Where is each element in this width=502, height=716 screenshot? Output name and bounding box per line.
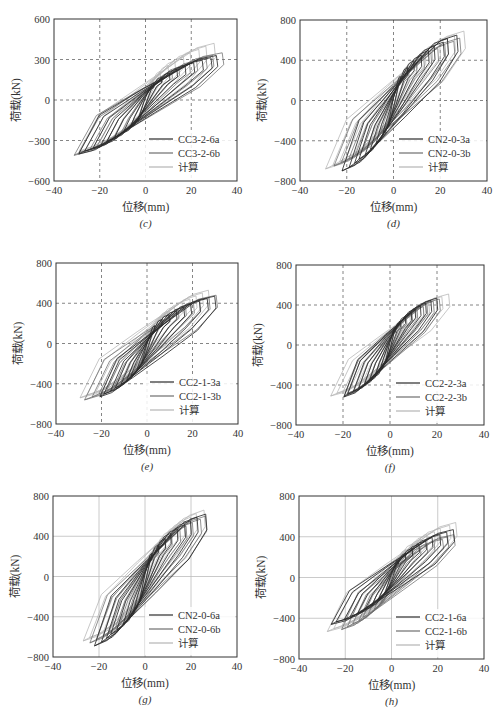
x-tick-label: 40 bbox=[479, 429, 490, 440]
y-tick-label: −800 bbox=[270, 420, 292, 431]
x-axis-label: 位移(mm) bbox=[370, 200, 418, 214]
y-tick-label: 0 bbox=[44, 572, 49, 583]
legend: CC2-1-3aCC2-1-3b计算 bbox=[146, 374, 236, 422]
y-tick-label: 400 bbox=[280, 55, 296, 66]
y-tick-label: 800 bbox=[279, 491, 295, 502]
figure-root: −40−2002040−600−3000300600位移(mm)荷载(kN)(c… bbox=[0, 0, 502, 716]
y-tick-label: 800 bbox=[276, 260, 292, 271]
legend-label: CC2-1-3b bbox=[179, 391, 221, 402]
x-tick-label: 40 bbox=[482, 185, 493, 196]
y-tick-label: −400 bbox=[273, 613, 295, 624]
legend-label: CC3-2-6a bbox=[178, 134, 220, 145]
legend-label: CC2-1-6a bbox=[425, 612, 467, 623]
chart-panel-h: −40−2002040−800−4000400800位移(mm)荷载(kN)(h… bbox=[255, 491, 489, 708]
x-tick-label: −20 bbox=[335, 429, 351, 440]
x-tick-label: 0 bbox=[387, 429, 392, 440]
y-tick-label: 300 bbox=[34, 55, 50, 66]
legend: CC2-2-3aCC2-2-3b计算 bbox=[392, 375, 482, 423]
chart-panel-g: −40−2002040−800−4000400800位移(mm)荷载(kN)(g… bbox=[9, 491, 242, 706]
legend: CC3-2-6aCC3-2-6b计算 bbox=[145, 131, 235, 179]
y-axis-label: 荷载(kN) bbox=[256, 78, 269, 122]
y-tick-label: 600 bbox=[34, 14, 50, 25]
x-tick-label: 20 bbox=[186, 185, 197, 196]
y-tick-label: −400 bbox=[274, 136, 296, 147]
y-tick-label: −400 bbox=[27, 612, 49, 623]
x-tick-label: 20 bbox=[186, 661, 197, 672]
y-axis-label: 荷载(kN) bbox=[12, 321, 25, 365]
x-tick-label: −20 bbox=[92, 185, 108, 196]
x-tick-label: −20 bbox=[339, 185, 355, 196]
x-tick-label: 0 bbox=[142, 661, 147, 672]
y-tick-label: 0 bbox=[287, 340, 292, 351]
legend-label: CN2-0-6a bbox=[178, 610, 220, 621]
y-tick-label: −800 bbox=[30, 419, 52, 430]
y-tick-label: −400 bbox=[30, 379, 52, 390]
y-tick-label: −800 bbox=[27, 652, 49, 663]
legend-label: 计算 bbox=[179, 404, 199, 416]
legend-label: 计算 bbox=[425, 639, 445, 651]
legend-label: CC2-2-3b bbox=[425, 392, 467, 403]
panel-caption: (g) bbox=[139, 693, 152, 706]
x-axis-label: 位移(mm) bbox=[368, 678, 416, 692]
legend-label: CC2-1-3a bbox=[179, 377, 221, 388]
x-tick-label: −20 bbox=[91, 661, 107, 672]
chart-panel-c: −40−2002040−600−3000300600位移(mm)荷载(kN)(c… bbox=[10, 14, 242, 230]
x-tick-label: 0 bbox=[143, 185, 148, 196]
legend: CN2-0-3aCN2-0-3b计算 bbox=[395, 131, 485, 179]
x-tick-label: −20 bbox=[337, 663, 353, 674]
chart-panel-d: −40−2002040−800−4000400800位移(mm)荷载(kN)(d… bbox=[256, 15, 492, 230]
legend-label: 计算 bbox=[178, 161, 198, 173]
y-tick-label: 400 bbox=[276, 300, 292, 311]
legend: CC2-1-6aCC2-1-6b计算 bbox=[392, 609, 482, 657]
panel-caption: (c) bbox=[139, 217, 152, 230]
x-axis-label: 位移(mm) bbox=[366, 444, 414, 458]
panel-caption: (e) bbox=[141, 460, 154, 473]
x-axis-label: 位移(mm) bbox=[122, 200, 170, 214]
y-axis-label: 荷载(kN) bbox=[252, 323, 265, 367]
y-tick-label: 800 bbox=[33, 491, 49, 502]
x-tick-label: 0 bbox=[389, 663, 394, 674]
x-tick-label: 40 bbox=[232, 185, 243, 196]
x-tick-label: 0 bbox=[391, 185, 396, 196]
x-axis-label: 位移(mm) bbox=[121, 676, 169, 690]
legend-label: CC3-2-6b bbox=[178, 148, 220, 159]
panel-caption: (f) bbox=[385, 461, 396, 474]
y-tick-label: 400 bbox=[279, 532, 295, 543]
x-tick-label: 20 bbox=[433, 663, 444, 674]
panel-caption: (d) bbox=[387, 217, 400, 230]
legend-label: 计算 bbox=[178, 637, 198, 649]
y-tick-label: 0 bbox=[291, 96, 296, 107]
y-axis-label: 荷载(kN) bbox=[10, 78, 23, 122]
y-tick-label: 400 bbox=[36, 298, 52, 309]
x-tick-label: 40 bbox=[479, 663, 490, 674]
y-tick-label: −800 bbox=[274, 176, 296, 187]
x-axis-label: 位移(mm) bbox=[123, 443, 171, 457]
y-axis-label: 荷载(kN) bbox=[9, 554, 22, 598]
y-tick-label: −400 bbox=[270, 380, 292, 391]
y-tick-label: 0 bbox=[47, 339, 52, 350]
y-axis-label: 荷载(kN) bbox=[255, 555, 268, 599]
x-tick-label: 40 bbox=[233, 428, 244, 439]
legend-label: 计算 bbox=[428, 161, 448, 173]
y-tick-label: 400 bbox=[33, 531, 49, 542]
panel-caption: (h) bbox=[385, 695, 398, 708]
y-tick-label: 0 bbox=[290, 573, 295, 584]
legend-label: CC2-1-6b bbox=[425, 626, 467, 637]
x-tick-label: 0 bbox=[144, 428, 149, 439]
x-tick-label: 20 bbox=[432, 429, 443, 440]
legend: CN2-0-6aCN2-0-6b计算 bbox=[145, 607, 235, 655]
chart-panel-f: −40−2002040−800−4000400800位移(mm)荷载(kN)(f… bbox=[252, 260, 489, 474]
legend-label: CN2-0-3b bbox=[428, 148, 471, 159]
chart-panel-e: −40−2002040−800−4000400800位移(mm)荷载(kN)(e… bbox=[12, 258, 243, 473]
y-tick-label: −300 bbox=[28, 136, 50, 147]
legend-label: CN2-0-6b bbox=[178, 624, 221, 635]
x-tick-label: 20 bbox=[187, 428, 198, 439]
y-tick-label: 800 bbox=[280, 15, 296, 26]
y-tick-label: −800 bbox=[273, 654, 295, 665]
x-tick-label: 40 bbox=[232, 661, 243, 672]
x-tick-label: 20 bbox=[435, 185, 446, 196]
legend-label: CC2-2-3a bbox=[425, 378, 467, 389]
legend-label: CN2-0-3a bbox=[428, 134, 470, 145]
y-tick-label: 800 bbox=[36, 258, 52, 269]
hysteresis-figure: −40−2002040−600−3000300600位移(mm)荷载(kN)(c… bbox=[0, 0, 502, 716]
